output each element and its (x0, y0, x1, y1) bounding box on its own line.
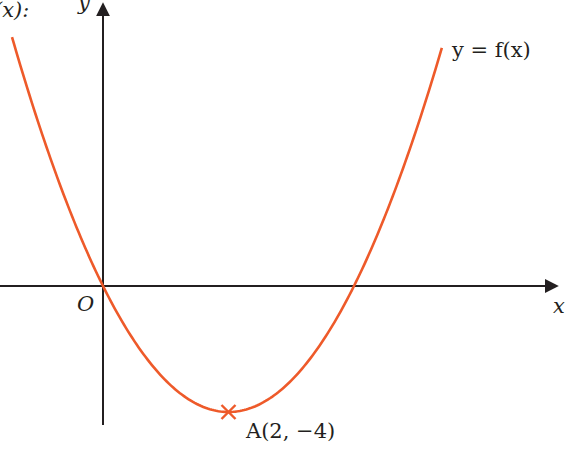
origin-label: O (77, 292, 94, 316)
parabola-curve (12, 37, 442, 412)
y-axis-label: y (77, 0, 91, 15)
top-left-fragment: (x): (0, 0, 29, 22)
curve-label: y = f(x) (451, 38, 531, 62)
x-axis-label: x (553, 294, 565, 318)
turning-point-label: A(2, −4) (245, 419, 335, 443)
graph: (x): y x O y = f(x) A(2, −4) (0, 0, 575, 462)
